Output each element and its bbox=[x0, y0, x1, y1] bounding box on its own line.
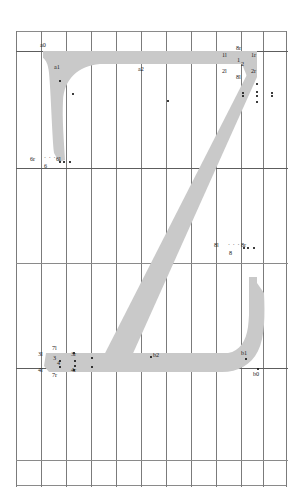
label-8l2: 8l bbox=[214, 242, 219, 248]
8-point[interactable] bbox=[247, 247, 249, 249]
label-3l: 3l bbox=[38, 351, 43, 357]
label-a2: a2 bbox=[138, 66, 144, 72]
label-b1: b1 bbox=[241, 350, 247, 356]
label-4l: 4l bbox=[38, 367, 43, 373]
label-b0: b0 bbox=[253, 371, 259, 377]
guide-dots-8: · · · bbox=[228, 242, 240, 248]
2-point[interactable] bbox=[256, 95, 258, 97]
8r2-point[interactable] bbox=[253, 247, 255, 249]
4l-point[interactable] bbox=[59, 366, 61, 368]
label-8l: 8l bbox=[236, 74, 241, 80]
label-b2: b2 bbox=[153, 352, 159, 358]
label-8r: 8r bbox=[236, 45, 241, 51]
6l-point[interactable] bbox=[69, 161, 71, 163]
b1-point[interactable] bbox=[245, 358, 247, 360]
1r-point[interactable] bbox=[271, 92, 273, 94]
label-8: 8 bbox=[229, 250, 232, 256]
1l-point[interactable] bbox=[242, 92, 244, 94]
label-1: 1 bbox=[237, 57, 240, 63]
label-2r: 2r bbox=[251, 68, 256, 74]
label-8r2: 8r bbox=[241, 242, 246, 248]
label-a1: a1 bbox=[54, 64, 60, 70]
control-points-layer bbox=[16, 31, 288, 487]
8r-point[interactable] bbox=[256, 83, 258, 85]
4r-point[interactable] bbox=[91, 366, 93, 368]
3r-point[interactable] bbox=[91, 357, 93, 359]
label-4r: 4r bbox=[71, 367, 76, 373]
label-6r: 6r bbox=[30, 156, 35, 162]
label-6: 6 bbox=[44, 163, 47, 169]
label-4: 4 bbox=[57, 360, 60, 366]
label-3r: 3r bbox=[71, 351, 76, 357]
8l-point[interactable] bbox=[256, 101, 258, 103]
label-a0: a0 bbox=[40, 42, 46, 48]
6-point[interactable] bbox=[63, 161, 65, 163]
a2-point[interactable] bbox=[167, 100, 169, 102]
glyph-proof-canvas: · · · · · · a0 a1 a2 1l 2l 8r 1 2 8l 1r … bbox=[0, 0, 304, 501]
2l-point[interactable] bbox=[242, 95, 244, 97]
a0-point[interactable] bbox=[59, 80, 61, 82]
label-2l: 2l bbox=[222, 68, 227, 74]
b2-point[interactable] bbox=[150, 356, 152, 358]
label-6l: 6l bbox=[56, 156, 61, 162]
label-2: 2 bbox=[241, 61, 244, 67]
label-7r: 7r bbox=[52, 372, 57, 378]
3-point[interactable] bbox=[74, 360, 76, 362]
label-7l: 7l bbox=[52, 345, 57, 351]
guide-dots-6: · · · bbox=[44, 155, 56, 161]
2r-point[interactable] bbox=[271, 95, 273, 97]
1-point[interactable] bbox=[256, 91, 258, 93]
label-3: 3 bbox=[53, 355, 56, 361]
label-1l: 1l bbox=[222, 52, 227, 58]
a1-point[interactable] bbox=[72, 93, 74, 95]
label-1r: 1r bbox=[251, 52, 256, 58]
